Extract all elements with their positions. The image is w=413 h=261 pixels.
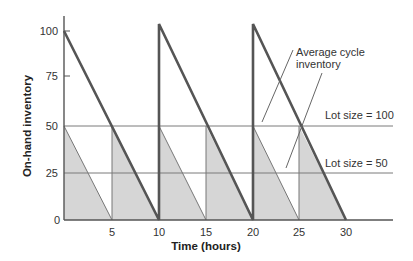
xtick-20: 20 (247, 226, 259, 238)
x-axis-title: Time (hours) (171, 240, 241, 252)
label-lot-size-100: Lot size = 100 (325, 109, 394, 121)
annotation-inventory: inventory (296, 58, 341, 70)
inventory-chart: 0 25 50 75 100 5 10 15 20 25 30 Time (ho… (0, 0, 413, 261)
annotation-leader-100 (262, 50, 293, 122)
chart-svg: 0 25 50 75 100 5 10 15 20 25 30 Time (ho… (0, 0, 413, 261)
label-lot-size-50: Lot size = 50 (325, 157, 388, 169)
annotation-average-cycle: Average cycle (296, 46, 365, 58)
xtick-25: 25 (293, 226, 305, 238)
xtick-15: 15 (200, 226, 212, 238)
ytick-25: 25 (46, 167, 58, 179)
y-axis-title: On-hand inventory (21, 74, 33, 177)
xtick-30: 30 (340, 226, 352, 238)
xtick-5: 5 (109, 226, 115, 238)
ytick-100: 100 (40, 25, 58, 37)
ytick-75: 75 (46, 70, 58, 82)
xtick-10: 10 (153, 226, 165, 238)
ytick-0: 0 (54, 214, 60, 226)
ytick-50: 50 (46, 120, 58, 132)
